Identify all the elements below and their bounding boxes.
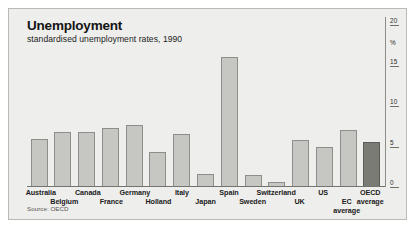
bar-france[interactable]: [102, 128, 119, 187]
bar-slot: [195, 25, 215, 187]
bar-belgium[interactable]: [54, 132, 71, 187]
y-axis-unit-label: %: [390, 39, 396, 46]
y-tick-rule: [390, 66, 399, 67]
bar-slot: [148, 25, 168, 187]
bar-slot: [243, 25, 263, 187]
y-axis-line: [385, 17, 386, 187]
bar-canada[interactable]: [78, 132, 95, 187]
y-tick-rule: [390, 106, 399, 107]
x-label-ec-average-cont: average: [315, 206, 379, 215]
bar-slot: [291, 25, 311, 187]
y-tick-rule: [390, 25, 399, 26]
y-tick-rule: [390, 147, 399, 148]
bar-ec-average[interactable]: [340, 130, 357, 188]
y-tick-label: 20: [390, 17, 397, 24]
bar-slot: [53, 25, 73, 187]
source-note: Source: OECD: [27, 205, 69, 212]
x-label-oecd-average: OECD: [338, 188, 402, 197]
x-axis-line: [27, 186, 386, 187]
bar-slot: [77, 25, 97, 187]
bar-germany[interactable]: [126, 125, 143, 187]
bar-slot: [172, 25, 192, 187]
bar-oecd-average[interactable]: [363, 142, 380, 187]
bar-us[interactable]: [316, 147, 333, 188]
y-tick-label: 15: [390, 58, 397, 65]
bar-series: [27, 25, 384, 187]
bar-slot: [124, 25, 144, 187]
bar-holland[interactable]: [149, 152, 166, 187]
bar-slot: [362, 25, 382, 187]
chart-figure: Unemployment standardised unemployment r…: [8, 8, 407, 220]
y-axis: % 05101520: [390, 25, 410, 187]
y-tick-label: 5: [390, 139, 394, 146]
bar-slot: [100, 25, 120, 187]
bar-slot: [338, 25, 358, 187]
bar-slot: [314, 25, 334, 187]
bar-spain[interactable]: [221, 57, 238, 187]
bar-australia[interactable]: [31, 139, 48, 187]
plot-area: [27, 25, 384, 187]
bar-uk[interactable]: [292, 140, 309, 187]
y-tick-label: 10: [390, 98, 397, 105]
y-tick-label: 0: [390, 179, 394, 186]
bar-italy[interactable]: [173, 134, 190, 187]
bar-slot: [29, 25, 49, 187]
x-label-oecd-average-cont: average: [338, 197, 402, 206]
bar-slot: [219, 25, 239, 187]
bar-slot: [267, 25, 287, 187]
x-axis-labels: AustraliaBelgiumCanadaFranceGermanyHolla…: [27, 188, 384, 214]
